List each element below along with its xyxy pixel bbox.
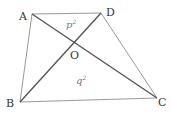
vertex-label-b: B (6, 97, 14, 110)
quadrilateral-diagram: A D B C O p2 q2 (0, 0, 171, 114)
region-label-q-squared: q2 (76, 74, 86, 86)
diagonals (20, 13, 157, 102)
side-ad (32, 13, 101, 14)
vertex-label-a: A (18, 10, 28, 23)
region-label-p-squared: p2 (66, 18, 76, 30)
vertex-label-d: D (106, 6, 115, 19)
diagonal-ac (32, 14, 157, 98)
vertex-label-c: C (158, 96, 166, 109)
side-ba (20, 14, 32, 102)
side-dc (101, 13, 157, 98)
intersection-label-o: O (70, 49, 79, 62)
side-cb (20, 98, 157, 102)
diagonal-bd (20, 13, 101, 102)
